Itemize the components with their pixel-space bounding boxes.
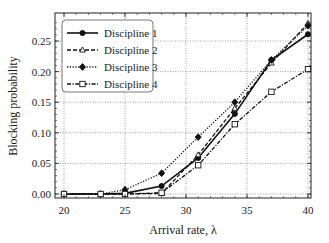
data-point-marker [98, 191, 103, 196]
data-point-marker [195, 134, 201, 141]
data-point-marker [305, 66, 310, 71]
y-tick-label: 0.05 [32, 157, 52, 169]
legend-marker [80, 81, 85, 86]
x-tick-label: 30 [181, 204, 193, 216]
y-tick-labels: 0.000.050.100.150.200.25 [32, 35, 52, 200]
legend-label: Discipline 4 [104, 78, 158, 90]
y-axis-label: Blocking probability [6, 56, 20, 156]
data-point-marker [232, 111, 237, 116]
data-point-marker [269, 89, 274, 94]
y-tick-label: 0.00 [32, 188, 52, 200]
legend-label: Discipline 2 [104, 44, 157, 56]
legend: Discipline 1Discipline 2Discipline 3Disc… [62, 20, 158, 92]
x-tick-label: 40 [303, 204, 315, 216]
y-tick-label: 0.20 [32, 66, 52, 78]
data-point-marker [305, 32, 310, 37]
x-tick-label: 20 [59, 204, 71, 216]
data-point-marker [232, 122, 237, 127]
y-tick-label: 0.10 [32, 127, 52, 139]
data-point-marker [159, 183, 164, 188]
legend-label: Discipline 1 [104, 27, 157, 39]
x-axis-label: Arrival rate, λ [149, 223, 217, 237]
y-tick-label: 0.25 [32, 35, 52, 47]
legend-label: Discipline 3 [104, 61, 158, 73]
x-tick-label: 35 [242, 204, 254, 216]
data-point-marker [159, 190, 164, 195]
x-tick-label: 25 [120, 204, 132, 216]
data-point-marker [232, 99, 238, 106]
x-tick-labels: 2025303540 [59, 204, 315, 216]
legend-marker [80, 30, 85, 35]
data-point-marker [196, 163, 201, 168]
blocking-probability-chart: 2025303540 0.000.050.100.150.200.25 Arri… [0, 0, 329, 243]
y-tick-label: 0.15 [32, 96, 52, 108]
